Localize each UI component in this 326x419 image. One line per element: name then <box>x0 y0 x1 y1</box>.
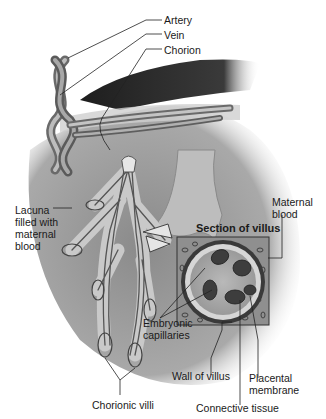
label-vein: Vein <box>164 29 184 41</box>
label-placental-membrane: Placental membrane <box>249 372 299 396</box>
label-chorion: Chorion <box>164 44 201 56</box>
placenta-diagram: Artery Vein Chorion Lacuna filled with m… <box>0 0 326 419</box>
label-section-of-villus: Section of villus <box>196 222 280 234</box>
label-maternal-blood: Maternal blood <box>272 196 313 220</box>
label-wall-of-villus: Wall of villus <box>172 370 230 382</box>
label-lacuna: Lacuna filled with maternal blood <box>15 204 58 252</box>
villus-section <box>177 237 269 325</box>
label-chorionic-villi: Chorionic villi <box>92 399 154 411</box>
label-embryonic-capillaries: Embryonic capillaries <box>143 317 193 341</box>
label-artery: Artery <box>164 14 192 26</box>
label-connective-tissue: Connective tissue <box>196 402 279 414</box>
